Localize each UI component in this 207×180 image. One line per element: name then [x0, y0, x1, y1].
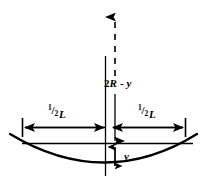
radius-symbol: R: [110, 77, 117, 89]
fraction-denominator: 2: [145, 110, 149, 118]
arc-curve: [10, 134, 197, 163]
sag-symbol: y: [127, 77, 132, 89]
geometry-diagram: 2R - y y 1/2L 1/2L: [0, 0, 207, 180]
half-span-left-label: 1/2L: [48, 105, 66, 120]
one-half-fraction: 1/2: [138, 105, 149, 118]
one-half-fraction: 1/2: [48, 105, 59, 118]
half-span-right-dimension: [113, 118, 186, 137]
half-span-right-label: 1/2L: [138, 105, 156, 120]
diagram-canvas: [0, 0, 207, 180]
span-variable: L: [149, 108, 156, 120]
half-span-left-dimension: [23, 118, 106, 137]
minus-operator: -: [117, 77, 126, 89]
span-variable: L: [59, 108, 66, 120]
vertical-dimension-label: 2R - y: [104, 78, 132, 89]
sag-label: y: [124, 151, 129, 162]
fraction-denominator: 2: [55, 110, 59, 118]
